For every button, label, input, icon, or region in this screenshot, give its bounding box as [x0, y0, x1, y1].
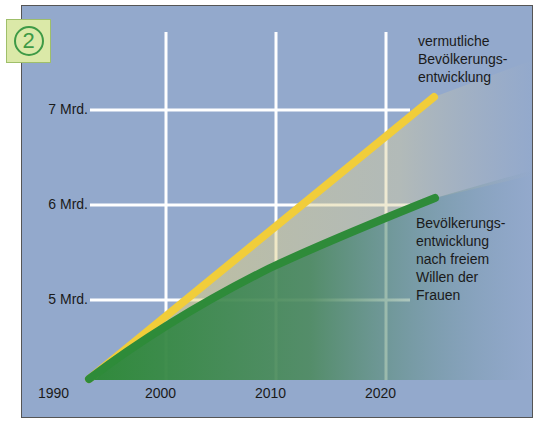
annotation-line: Bevölkerungs- — [418, 50, 508, 68]
annotation-line: nach freiem — [416, 250, 506, 268]
y-tick-7: 7 Mrd. — [18, 101, 88, 117]
x-tick-2010: 2010 — [255, 385, 286, 401]
y-tick-5: 5 Mrd. — [18, 291, 88, 307]
annotation-line: Frauen — [416, 286, 506, 304]
annotation-line: entwicklung — [418, 68, 508, 86]
x-tick-1990: 1990 — [38, 385, 69, 401]
figure-number-badge: 2 — [6, 19, 51, 63]
y-tick-6: 6 Mrd. — [18, 196, 88, 212]
annotation-line: Willen der — [416, 268, 506, 286]
x-tick-2000: 2000 — [145, 385, 176, 401]
annotation-line: vermutliche — [418, 32, 508, 50]
annotation-line: entwicklung — [416, 232, 506, 250]
yellow-series-annotation: vermutliche Bevölkerungs- entwicklung — [418, 32, 508, 86]
green-series-annotation: Bevölkerungs- entwicklung nach freiem Wi… — [416, 214, 506, 304]
x-tick-2020: 2020 — [365, 385, 396, 401]
badge-number: 2 — [14, 26, 44, 56]
annotation-line: Bevölkerungs- — [416, 214, 506, 232]
